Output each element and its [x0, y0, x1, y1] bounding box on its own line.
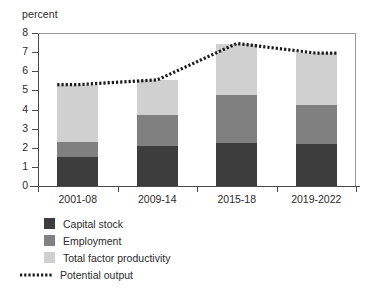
legend-item[interactable]: Capital stock: [44, 215, 344, 232]
x-tick-label: 2015-18: [197, 193, 277, 205]
x-tick-mark: [118, 187, 119, 192]
legend-label: Potential output: [60, 269, 133, 281]
x-tick-label: 2001-08: [38, 193, 118, 205]
y-tick-label: 6: [6, 65, 28, 75]
chart-figure: percent 012345678 2001-082009-142015-182…: [0, 0, 369, 291]
x-tick-label: 2019-2022: [276, 193, 356, 205]
legend-label: Capital stock: [63, 218, 123, 230]
potential-output-line-layer: [38, 33, 356, 186]
y-tick-label: 2: [6, 142, 28, 152]
x-tick-label: 2009-14: [117, 193, 197, 205]
x-tick-mark: [277, 187, 278, 192]
x-tick-mark: [197, 187, 198, 192]
y-tick-label: 5: [6, 84, 28, 94]
legend-label: Total factor productivity: [63, 252, 170, 264]
x-tick-mark: [38, 187, 39, 192]
plot-area: [38, 33, 356, 186]
y-tick-label: 1: [6, 161, 28, 171]
legend-dotted-line-icon: [20, 273, 52, 276]
y-tick-label: 4: [6, 104, 28, 114]
legend-label: Employment: [63, 235, 121, 247]
legend-swatch: [44, 252, 55, 263]
legend-swatch: [44, 235, 55, 246]
legend-item[interactable]: Potential output: [20, 266, 344, 283]
x-tick-mark: [356, 187, 357, 192]
legend-item[interactable]: Total factor productivity: [44, 249, 344, 266]
y-tick-label: 7: [6, 46, 28, 56]
x-axis-line: [30, 186, 360, 187]
y-tick-label: 8: [6, 27, 28, 37]
y-tick-label: 0: [6, 180, 28, 190]
chart-legend: Capital stockEmploymentTotal factor prod…: [44, 215, 344, 283]
legend-item[interactable]: Employment: [44, 232, 344, 249]
legend-swatch: [44, 218, 55, 229]
y-axis-title: percent: [22, 8, 58, 20]
y-tick-label: 3: [6, 123, 28, 133]
potential-output-line: [57, 44, 337, 85]
